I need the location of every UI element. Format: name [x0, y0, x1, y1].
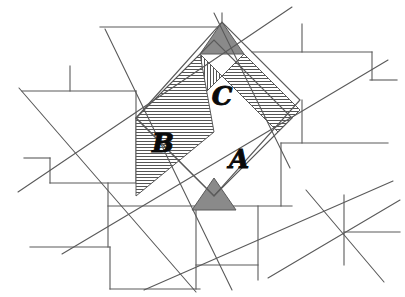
- label-square-a: A: [226, 144, 249, 174]
- pythagorean-diagram: A B C: [0, 0, 405, 297]
- label-square-b: B: [151, 128, 174, 158]
- label-square-c: C: [212, 81, 233, 111]
- diagram-canvas: A B C: [0, 0, 405, 297]
